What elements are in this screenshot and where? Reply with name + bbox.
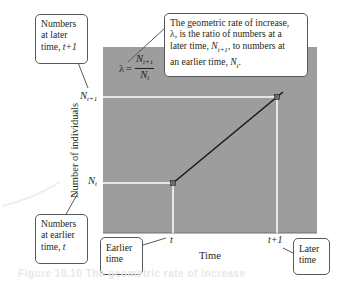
x-axis-title: Time bbox=[199, 250, 221, 261]
callout-later-numbers-prefix: time, bbox=[41, 41, 63, 52]
y-axis-title: Number of individuals bbox=[69, 103, 80, 198]
definition-line3: later time, Nt+1, to numbers at bbox=[170, 40, 302, 56]
callout-later-time-line1: Later bbox=[299, 243, 324, 254]
y-label-n-t: Nt bbox=[88, 175, 97, 188]
equals-sign: = bbox=[126, 63, 132, 74]
figure-caption: Figure 10.10 The geometric rate of incre… bbox=[18, 268, 246, 279]
leader-later-numbers bbox=[77, 60, 88, 88]
definition-line4: an earlier time, Nt. bbox=[170, 56, 302, 72]
callout-later-numbers-var: t+1 bbox=[63, 41, 77, 52]
x-tick-t: t bbox=[170, 234, 173, 245]
lambda-formula: λ = Nt+1 Nt bbox=[119, 53, 154, 84]
leader-earlier-time bbox=[143, 238, 166, 245]
callout-later-numbers-line1: Numbers bbox=[41, 18, 82, 29]
ratio-fraction: Nt+1 Nt bbox=[135, 53, 154, 84]
point-marker-t bbox=[171, 181, 176, 186]
y-label-n-t-base: N bbox=[88, 175, 95, 186]
y-label-n-t-sub: t bbox=[95, 180, 97, 188]
lambda-symbol: λ bbox=[119, 63, 124, 74]
callout-earlier-time-line2: time bbox=[106, 253, 137, 264]
callout-later-numbers-line3: time, t+1 bbox=[41, 41, 82, 52]
callout-earlier-numbers-line1: Numbers bbox=[41, 218, 82, 229]
fraction-numerator: Nt+1 bbox=[135, 53, 154, 69]
y-label-n-t1: Nt+1 bbox=[80, 90, 97, 103]
callout-earlier-numbers-var: t bbox=[63, 241, 66, 252]
denominator-sub: t bbox=[147, 74, 149, 82]
callout-earlier-numbers: Numbers at earlier time, t bbox=[35, 214, 88, 264]
callout-later-numbers: Numbers at later time, t+1 bbox=[35, 14, 88, 64]
callout-earlier-numbers-line3: time, t bbox=[41, 241, 82, 252]
y-label-n-t1-sub: t+1 bbox=[87, 95, 97, 103]
callout-earlier-numbers-line2: at earlier bbox=[41, 229, 82, 240]
definition-line3-sub: t+1 bbox=[218, 46, 228, 54]
point-marker-t1 bbox=[275, 95, 280, 100]
fraction-denominator: Nt bbox=[140, 69, 149, 84]
definition-line4-prefix: an earlier time, bbox=[170, 56, 230, 67]
definition-line4-suffix: . bbox=[239, 56, 241, 67]
definition-line3-prefix: later time, bbox=[170, 40, 211, 51]
definition-line3-suffix: , to numbers at bbox=[228, 40, 285, 51]
faint-curve bbox=[2, 182, 60, 206]
definition-line2: λ, is the ratio of numbers at a bbox=[170, 28, 302, 39]
callout-later-time: Later time bbox=[293, 238, 330, 275]
callout-later-numbers-line2: at later bbox=[41, 29, 82, 40]
numerator-base: N bbox=[136, 53, 143, 64]
y-label-n-t1-base: N bbox=[80, 90, 87, 101]
callout-later-time-line2: time bbox=[299, 254, 324, 265]
numerator-sub: t+1 bbox=[143, 58, 153, 66]
callout-definition: The geometric rate of increase, λ, is th… bbox=[164, 13, 308, 77]
x-tick-t1: t+1 bbox=[268, 234, 283, 245]
callout-earlier-time-line1: Earlier bbox=[106, 242, 137, 253]
callout-earlier-numbers-prefix: time, bbox=[41, 241, 63, 252]
definition-line1: The geometric rate of increase, bbox=[170, 17, 302, 28]
